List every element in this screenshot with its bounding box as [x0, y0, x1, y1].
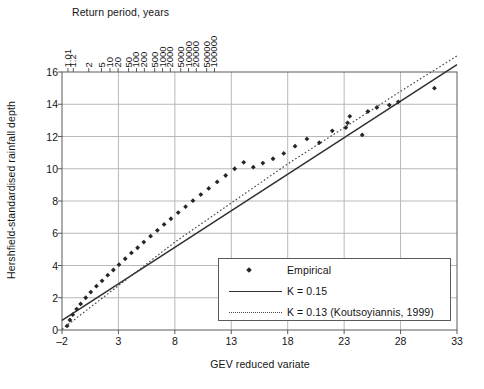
legend-label: K = 0.15 — [287, 285, 327, 297]
data-point-marker — [83, 295, 88, 300]
legend-item-k013: K = 0.13 (Koutsoyiannis, 1999) — [219, 301, 450, 322]
data-point-marker — [117, 262, 122, 267]
data-point-marker — [215, 180, 220, 185]
data-point-marker — [198, 192, 203, 197]
data-point-marker — [191, 198, 196, 203]
data-point-marker — [206, 186, 211, 191]
data-point-marker — [148, 234, 153, 239]
data-point-marker — [123, 256, 128, 261]
data-point-marker — [169, 216, 174, 221]
data-point-marker — [271, 156, 276, 161]
data-point-marker — [78, 301, 83, 306]
data-point-marker — [105, 273, 110, 278]
data-point-marker — [347, 114, 352, 119]
chart-legend: Empirical K = 0.15 K = 0.13 (Koutsoyiann… — [218, 258, 451, 321]
chart-figure: Return period, years 1.011.2251020501002… — [0, 0, 484, 389]
solid-line-icon — [219, 280, 287, 301]
plot-area — [0, 0, 484, 389]
diamond-marker-icon — [219, 259, 287, 280]
data-point-marker — [345, 120, 350, 125]
data-point-marker — [155, 228, 160, 233]
data-point-marker — [88, 290, 93, 295]
data-point-marker — [162, 222, 167, 227]
legend-label: Empirical — [287, 264, 331, 276]
data-point-marker — [129, 251, 134, 256]
data-point-marker — [432, 86, 437, 91]
dotted-line-icon — [219, 301, 287, 322]
data-point-marker — [74, 307, 79, 312]
data-point-marker — [241, 160, 246, 165]
data-point-marker — [176, 210, 181, 215]
data-point-marker — [135, 245, 140, 250]
data-point-marker — [100, 278, 105, 283]
data-point-marker — [281, 151, 286, 156]
data-point-marker — [232, 166, 237, 171]
data-point-marker — [330, 128, 335, 133]
data-point-marker — [223, 173, 228, 178]
legend-item-empirical: Empirical — [219, 259, 450, 280]
legend-item-k015: K = 0.15 — [219, 280, 450, 301]
data-point-marker — [94, 284, 99, 289]
data-point-marker — [260, 161, 265, 166]
legend-label: K = 0.13 (Koutsoyiannis, 1999) — [287, 306, 434, 318]
data-point-marker — [111, 268, 116, 273]
data-point-marker — [183, 204, 188, 209]
data-point-marker — [141, 240, 146, 245]
data-point-marker — [293, 144, 298, 149]
data-point-marker — [305, 137, 310, 142]
